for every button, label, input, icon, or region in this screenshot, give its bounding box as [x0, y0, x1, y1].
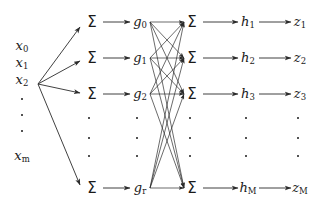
inputs-ellipsis-dot-0: [21, 98, 23, 100]
inputs-node-x0: x0: [16, 39, 29, 53]
activation-to-output-edges: [259, 22, 291, 188]
inputs-node-x2: x2: [16, 73, 29, 87]
input-edge-3: [38, 84, 80, 185]
hidden_act-node-gr: gr: [134, 181, 146, 195]
hidden_act-ellipsis-dot-2: [136, 155, 138, 157]
hidden_act-node-g0: g0: [133, 15, 147, 29]
variable-subscript: 1: [141, 56, 146, 66]
hidden_sum-sigma-2: Σ: [87, 87, 96, 102]
inputs-node-x1: x1: [16, 56, 29, 70]
variable-subscript: M: [299, 186, 308, 196]
output_act-node-h1: h1: [241, 15, 255, 29]
variable-base: z: [294, 86, 301, 101]
output_act-ellipsis-dot-1: [245, 137, 247, 139]
input-edge-2: [38, 84, 80, 93]
output_sum-ellipsis-dot-2: [189, 155, 191, 157]
input-fanout-edges: [38, 27, 80, 185]
input-edge-1: [38, 61, 80, 84]
variable-base: z: [292, 180, 299, 195]
hidden_sum-sigma-1: Σ: [87, 51, 96, 66]
variable-subscript: 3: [249, 92, 254, 102]
inputs-node-xm: xm: [14, 149, 29, 163]
output_act-ellipsis-dot-2: [245, 155, 247, 157]
output_sum-ellipsis-dot-1: [189, 137, 191, 139]
variable-subscript: r: [142, 186, 146, 196]
variable-subscript: 2: [249, 56, 254, 66]
output_sum-sigma-3: Σ: [187, 181, 196, 196]
output_act-ellipsis-dot-0: [245, 117, 247, 119]
output_sum-sigma-0: Σ: [187, 15, 196, 30]
output_sum-ellipsis-dot-0: [189, 117, 191, 119]
output_act-node-hM: hM: [239, 181, 256, 195]
hidden_sum-sigma-0: Σ: [87, 15, 96, 30]
edges-layer: [0, 0, 324, 212]
variable-subscript: 2: [141, 92, 146, 102]
hidden_act-ellipsis-dot-1: [136, 137, 138, 139]
fully-connected-mesh-edges: [150, 22, 184, 188]
output_act-node-h3: h3: [241, 87, 255, 101]
hidden_sum-ellipsis-dot-2: [88, 155, 90, 157]
output_sum-sigma-2: Σ: [187, 87, 196, 102]
neural-network-diagram: x0x1x2xmg0g1g2grh1h2h3hMz1z2z3zMΣΣΣΣΣΣΣΣ: [0, 0, 324, 212]
hidden-sum-to-activation-edges: [103, 22, 130, 188]
variable-subscript: 2: [301, 56, 306, 66]
output_sum-sigma-1: Σ: [187, 51, 196, 66]
outputs-node-zM: zM: [292, 181, 308, 195]
hidden_act-ellipsis-dot-0: [136, 117, 138, 119]
hidden_sum-ellipsis-dot-0: [88, 117, 90, 119]
outputs-node-z1: z1: [294, 15, 306, 29]
hidden_sum-ellipsis-dot-1: [88, 137, 90, 139]
variable-subscript: 0: [23, 44, 28, 54]
variable-subscript: 2: [23, 78, 28, 88]
hidden_sum-sigma-3: Σ: [87, 181, 96, 196]
outputs-node-z2: z2: [294, 51, 306, 65]
output-sum-to-activation-edges: [203, 22, 238, 188]
variable-subscript: 0: [141, 20, 146, 30]
outputs-ellipsis-dot-0: [297, 117, 299, 119]
variable-base: z: [294, 14, 301, 29]
outputs-node-z3: z3: [294, 87, 306, 101]
variable-base: z: [294, 50, 301, 65]
variable-subscript: 3: [301, 92, 306, 102]
input-edge-0: [38, 27, 80, 84]
outputs-ellipsis-dot-1: [297, 137, 299, 139]
inputs-ellipsis-dot-1: [21, 114, 23, 116]
hidden_act-node-g2: g2: [133, 87, 147, 101]
outputs-ellipsis-dot-2: [297, 155, 299, 157]
inputs-ellipsis-dot-2: [21, 130, 23, 132]
hidden_act-node-g1: g1: [133, 51, 147, 65]
variable-subscript: 1: [23, 61, 28, 71]
variable-subscript: M: [248, 186, 257, 196]
variable-subscript: m: [22, 154, 30, 164]
output_act-node-h2: h2: [241, 51, 255, 65]
variable-subscript: 1: [249, 20, 254, 30]
variable-subscript: 1: [301, 20, 306, 30]
